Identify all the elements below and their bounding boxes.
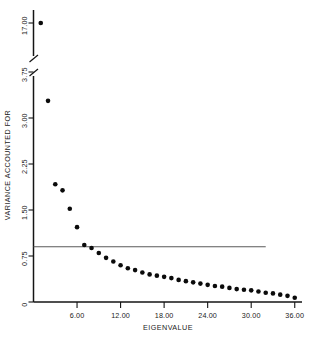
data-point-series — [38, 21, 297, 300]
scree-plot-canvas: 6.0012.0018.0024.0030.0036.00 17.003.753… — [0, 0, 315, 342]
data-point — [285, 294, 290, 299]
x-tick-label-36.00: 36.00 — [285, 311, 304, 320]
y-axis-title: VARIANCE ACCOUNTED FOR — [3, 110, 12, 220]
data-point — [169, 276, 174, 281]
data-point — [104, 256, 109, 261]
x-axis-ticks — [77, 302, 295, 308]
data-point — [227, 286, 232, 291]
y-tick-label-2.25: 2.25 — [20, 159, 29, 174]
data-point — [111, 259, 116, 264]
x-axis-title: EIGENVALUE — [143, 323, 193, 332]
data-point — [292, 295, 297, 300]
x-axis-tick-labels: 6.0012.0018.0024.0030.0036.00 — [70, 311, 304, 320]
data-point — [60, 188, 65, 193]
data-point — [97, 251, 102, 256]
y-axis-tick-labels: 17.003.753.002.251.500.750 — [20, 16, 29, 306]
data-point — [82, 243, 87, 248]
y-tick-label-0: 0 — [20, 303, 29, 307]
data-point — [271, 291, 276, 296]
data-point — [184, 279, 189, 284]
data-point — [53, 182, 58, 187]
y-tick-label-17.00: 17.00 — [20, 16, 29, 35]
y-tick-label-3.00: 3.00 — [20, 113, 29, 128]
data-point — [75, 225, 80, 230]
axes-group — [30, 10, 303, 302]
data-point — [234, 287, 239, 292]
data-point — [198, 281, 203, 286]
scree-plot-figure: 6.0012.0018.0024.0030.0036.00 17.003.753… — [0, 0, 315, 342]
data-point — [176, 278, 181, 283]
data-point — [256, 289, 261, 294]
data-point — [126, 266, 131, 271]
x-tick-label-12.00: 12.00 — [111, 311, 130, 320]
x-tick-label-30.00: 30.00 — [242, 311, 261, 320]
data-point — [38, 21, 43, 26]
data-point — [140, 270, 145, 275]
data-point — [278, 292, 283, 297]
data-point — [133, 268, 138, 273]
data-point — [162, 275, 167, 280]
data-point — [191, 280, 196, 285]
data-point — [67, 206, 72, 211]
data-point — [242, 287, 247, 292]
x-tick-label-6.00: 6.00 — [70, 311, 85, 320]
y-tick-label-3.75: 3.75 — [20, 67, 29, 82]
data-point — [89, 246, 94, 251]
y-tick-label-0.75: 0.75 — [20, 251, 29, 266]
data-point — [213, 284, 218, 289]
data-point — [220, 284, 225, 289]
x-tick-label-24.00: 24.00 — [198, 311, 217, 320]
data-point — [249, 288, 254, 293]
data-point — [263, 291, 268, 296]
data-point — [205, 283, 210, 288]
y-tick-label-1.50: 1.50 — [20, 205, 29, 220]
data-point — [46, 99, 51, 104]
y-axis-break-upper-slash-icon — [30, 55, 39, 62]
data-point — [118, 263, 123, 268]
data-point — [147, 272, 152, 277]
x-tick-label-18.00: 18.00 — [155, 311, 174, 320]
data-point — [155, 273, 160, 278]
